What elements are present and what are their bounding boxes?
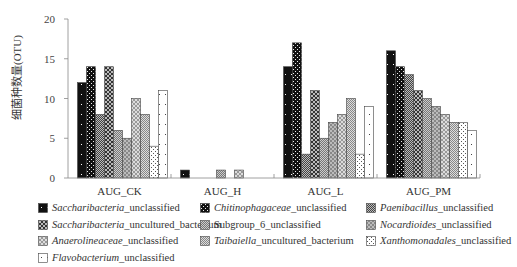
legend-taxon: Saccharibacteria	[52, 200, 124, 217]
legend-suffix: _unclassified	[436, 217, 491, 234]
legend-suffix: _unclassified	[438, 200, 493, 217]
y-tick-label: 20	[44, 13, 56, 25]
bar-AUG_L-0	[284, 67, 293, 178]
legend-swatch-icon	[38, 236, 48, 246]
bar-AUG_CK-7	[141, 114, 150, 178]
bar-AUG_CK-2	[96, 114, 105, 178]
bar-AUG_L-7	[347, 99, 356, 179]
bar-AUG_CK-8	[150, 146, 159, 178]
bar-AUG_PM-1	[396, 67, 405, 178]
legend-item: Flavobacterium_unclassified	[38, 250, 174, 267]
bar-AUG_H-6	[235, 170, 244, 178]
legend-swatch-icon	[200, 220, 210, 230]
legend-swatch-icon	[366, 220, 376, 230]
x-tick-label: AUG_H	[204, 185, 241, 197]
y-tick-label: 0	[50, 172, 56, 184]
legend-suffix: _unclassified	[123, 233, 178, 250]
bar-AUG_L-8	[356, 154, 365, 178]
legend-swatch-icon	[38, 253, 48, 263]
legend-swatch-icon	[200, 203, 210, 213]
legend-taxon: Saccharibacteria	[52, 217, 124, 234]
bar-AUG_L-4	[320, 138, 329, 178]
bar-AUG_CK-5	[123, 138, 132, 178]
legend-suffix: _uncultured_bacterium	[256, 233, 353, 250]
x-tick-label: AUG_PM	[406, 185, 451, 197]
x-tick-label: AUG_CK	[97, 185, 142, 197]
bar-AUG_H-0	[181, 170, 190, 178]
legend-item: Nocardioides_unclassified	[366, 217, 492, 234]
bar-AUG_H-4	[217, 170, 226, 178]
legend-swatch-icon	[366, 236, 376, 246]
bars-layer	[78, 43, 477, 178]
legend-suffix: _unclassified	[119, 250, 174, 267]
legend-swatch-icon	[38, 203, 48, 213]
legend-suffix: Subgroup_6_unclassified	[214, 217, 321, 234]
legend-taxon: Anaerolineaceae	[52, 233, 123, 250]
legend-suffix: _unclassified	[456, 233, 511, 250]
y-tick-label: 10	[44, 93, 56, 105]
legend-item: Taibaiella_uncultured_bacterium	[200, 233, 354, 250]
bar-AUG_CK-9	[159, 91, 168, 178]
legend-swatch-icon	[366, 203, 376, 213]
legend-taxon: Taibaiella	[214, 233, 256, 250]
legend-item: Subgroup_6_unclassified	[200, 217, 321, 234]
legend-item: Anaerolineaceae_unclassified	[38, 233, 178, 250]
bar-AUG_PM-8	[459, 122, 468, 178]
x-tick-label: AUG_L	[307, 185, 343, 197]
bar-AUG_CK-6	[132, 99, 141, 179]
legend-taxon: Xanthomonadales	[380, 233, 456, 250]
legend-taxon: Nocardioides	[380, 217, 436, 234]
bar-AUG_CK-4	[114, 130, 123, 178]
legend-item: Saccharibacteria_uncultured_bacterium	[38, 217, 222, 234]
bar-AUG_CK-0	[78, 83, 87, 178]
legend-taxon: Chitinophagaceae	[214, 200, 291, 217]
legend-item: Chitinophagaceae_unclassified	[200, 200, 346, 217]
y-axis-label: 细菌种数量(OTU)	[8, 35, 24, 120]
legend-item: Saccharibacteria_unclassified	[38, 200, 180, 217]
bar-AUG_PM-6	[441, 114, 450, 178]
legend-swatch-icon	[200, 236, 210, 246]
bar-AUG_PM-2	[405, 75, 414, 178]
y-tick-label: 5	[50, 132, 56, 144]
bar-AUG_PM-9	[468, 130, 477, 178]
bar-AUG_L-2	[302, 154, 311, 178]
bar-AUG_L-6	[338, 114, 347, 178]
bar-AUG_CK-1	[87, 67, 96, 178]
bar-AUG_PM-7	[450, 122, 459, 178]
bar-AUG_PM-0	[387, 51, 396, 178]
legend-taxon: Paenibacillus	[380, 200, 438, 217]
legend-item: Xanthomonadales_unclassified	[366, 233, 511, 250]
legend-suffix: _unclassified	[124, 200, 179, 217]
bar-AUG_PM-3	[414, 91, 423, 178]
bar-AUG_PM-5	[432, 106, 441, 178]
legend-suffix: _unclassified	[291, 200, 346, 217]
y-tick-label: 15	[44, 53, 56, 65]
bar-AUG_L-3	[311, 91, 320, 178]
bar-AUG_CK-3	[105, 67, 114, 178]
bar-AUG_L-1	[293, 43, 302, 178]
legend-taxon: Flavobacterium	[52, 250, 119, 267]
bar-AUG_PM-4	[423, 99, 432, 179]
legend-swatch-icon	[38, 220, 48, 230]
legend-item: Paenibacillus_unclassified	[366, 200, 493, 217]
bar-AUG_L-9	[365, 106, 374, 178]
bar-AUG_L-5	[329, 122, 338, 178]
